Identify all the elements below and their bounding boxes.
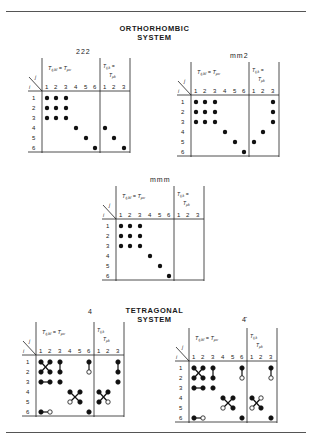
svg-text:1: 1 <box>181 99 185 105</box>
svg-text:j: j <box>181 344 184 350</box>
svg-text:1: 1 <box>26 359 30 365</box>
svg-text:3: 3 <box>122 84 126 90</box>
svg-text:2: 2 <box>259 354 263 360</box>
svg-text:1: 1 <box>106 223 110 229</box>
bottom-rule <box>6 432 306 433</box>
svg-text:Tij,kl = Tμν: Tij,kl = Tμν <box>195 335 218 342</box>
svg-text:5: 5 <box>78 348 82 354</box>
svg-text:2: 2 <box>128 212 132 218</box>
svg-text:3: 3 <box>211 354 215 360</box>
svg-text:6: 6 <box>242 88 246 94</box>
tensor-table-mm2: Tij,kl = Tμν Tij,k = Tμk ji 123456 123 1… <box>175 62 285 157</box>
svg-text:Tμk: Tμk <box>258 76 265 83</box>
tensor-table-222: Tij,kl = Tμν Tij,k = Tμk ji 123456 123 1… <box>26 58 136 153</box>
svg-text:4: 4 <box>148 212 152 218</box>
tensor-table-mmm: Tij,kl = Tμν Tij,k = Tμk ji 123456 123 1… <box>100 186 210 281</box>
svg-text:3: 3 <box>26 379 30 385</box>
svg-text:3: 3 <box>32 115 36 121</box>
svg-text:Tij,k: Tij,k <box>97 327 105 334</box>
svg-text:3: 3 <box>179 385 183 391</box>
svg-text:3: 3 <box>196 212 200 218</box>
svg-text:2: 2 <box>48 348 52 354</box>
svg-text:j: j <box>183 78 186 84</box>
svg-text:i: i <box>29 84 31 90</box>
svg-text:5: 5 <box>26 399 30 405</box>
svg-text:j: j <box>108 202 111 208</box>
svg-text:5: 5 <box>181 139 185 145</box>
svg-text:3: 3 <box>213 88 217 94</box>
svg-text:5: 5 <box>158 212 162 218</box>
svg-text:3: 3 <box>116 348 120 354</box>
svg-text:5: 5 <box>179 405 183 411</box>
svg-text:2: 2 <box>203 88 207 94</box>
svg-text:6: 6 <box>106 273 110 279</box>
svg-text:1: 1 <box>45 84 49 90</box>
svg-text:Tμk: Tμk <box>109 72 116 79</box>
tensor-table-4: Tij,kl = Tμν Tij,k Tμk ji 123456 123 123… <box>20 322 130 417</box>
svg-text:i: i <box>178 88 180 94</box>
svg-text:2: 2 <box>201 354 205 360</box>
svg-text:2: 2 <box>186 212 190 218</box>
svg-text:6: 6 <box>26 409 30 415</box>
svg-text:6: 6 <box>240 354 244 360</box>
svg-text:Tμk: Tμk <box>256 342 263 349</box>
svg-text:1: 1 <box>39 348 43 354</box>
svg-text:5: 5 <box>233 88 237 94</box>
class-label-mm2: mm2 <box>230 52 249 59</box>
svg-text:4: 4 <box>26 389 30 395</box>
svg-text:2: 2 <box>106 233 110 239</box>
svg-text:Tij,k =: Tij,k = <box>103 63 115 70</box>
svg-text:Tij,kl = Tμν: Tij,kl = Tμν <box>42 329 65 336</box>
tetragonal-title-line1: TETRAGONAL <box>0 306 309 315</box>
svg-text:3: 3 <box>271 88 275 94</box>
svg-text:1: 1 <box>97 348 101 354</box>
svg-text:1: 1 <box>250 354 254 360</box>
svg-text:4: 4 <box>223 88 227 94</box>
orthorhombic-title: ORTHORHOMBIC SYSTEM <box>0 24 309 42</box>
svg-text:Tij,kl = Tμν: Tij,kl = Tμν <box>48 65 71 72</box>
svg-text:2: 2 <box>106 348 110 354</box>
svg-text:2: 2 <box>181 109 185 115</box>
svg-text:j: j <box>28 338 31 344</box>
svg-text:i: i <box>103 212 105 218</box>
svg-text:6: 6 <box>167 212 171 218</box>
svg-text:1: 1 <box>194 88 198 94</box>
svg-text:j: j <box>34 74 37 80</box>
svg-text:1: 1 <box>252 88 256 94</box>
svg-text:6: 6 <box>87 348 91 354</box>
svg-text:3: 3 <box>138 212 142 218</box>
svg-text:3: 3 <box>106 243 110 249</box>
top-rule <box>6 11 306 12</box>
svg-text:6: 6 <box>181 149 185 155</box>
svg-text:Tij,k =: Tij,k = <box>177 191 189 198</box>
orthorhombic-title-line1: ORTHORHOMBIC <box>0 24 309 33</box>
class-label-mmm: mmm <box>150 176 171 183</box>
svg-text:Tij,kl = Tμν: Tij,kl = Tμν <box>197 69 220 76</box>
svg-text:2: 2 <box>112 84 116 90</box>
svg-text:i: i <box>176 354 178 360</box>
svg-text:Tμk: Tμk <box>183 200 190 207</box>
svg-text:1: 1 <box>179 365 183 371</box>
svg-text:1: 1 <box>119 212 123 218</box>
svg-text:4: 4 <box>179 395 183 401</box>
svg-text:5: 5 <box>106 263 110 269</box>
svg-text:i: i <box>23 348 25 354</box>
svg-text:1: 1 <box>177 212 181 218</box>
svg-text:Tμk: Tμk <box>103 336 110 343</box>
svg-text:4: 4 <box>68 348 72 354</box>
svg-text:3: 3 <box>181 119 185 125</box>
tensor-table-4bar: Tij,kl = Tμν Tij,k Tμk ji 123456 123 123… <box>173 328 283 423</box>
svg-text:3: 3 <box>269 354 273 360</box>
svg-text:4: 4 <box>74 84 78 90</box>
class-label-4bar: 4̄ <box>242 316 247 323</box>
svg-text:2: 2 <box>26 369 30 375</box>
svg-text:5: 5 <box>84 84 88 90</box>
svg-text:4: 4 <box>181 129 185 135</box>
svg-text:Tij,k: Tij,k <box>250 333 258 340</box>
svg-text:Tij,kl = Tμν: Tij,kl = Tμν <box>122 193 145 200</box>
svg-text:1: 1 <box>192 354 196 360</box>
svg-text:4: 4 <box>32 125 36 131</box>
svg-text:4: 4 <box>221 354 225 360</box>
svg-text:2: 2 <box>54 84 58 90</box>
svg-text:3: 3 <box>64 84 68 90</box>
